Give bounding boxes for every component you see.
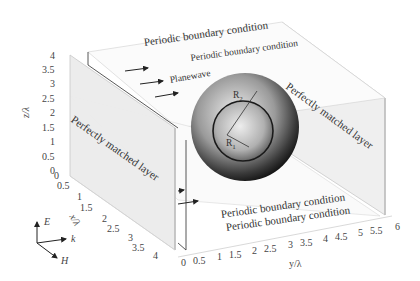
y-axis-label: y/λ — [289, 258, 302, 269]
r1-label: R1 — [226, 138, 236, 151]
z-tick: 2.5 — [42, 93, 55, 104]
y-tick: 0 — [181, 257, 186, 268]
k-vector-label: k — [71, 233, 75, 244]
z-tick: 1 — [50, 136, 55, 147]
x-tick: 1 — [77, 191, 82, 202]
x-tick: 2.5 — [107, 223, 120, 234]
y-tick: 5.5 — [370, 225, 383, 236]
z-tick: 3 — [50, 78, 55, 89]
h-field-arrow — [37, 243, 57, 258]
simulation-domain-diagram: Periodic boundary condition Periodic bou… — [0, 0, 420, 281]
z-tick: 2 — [50, 107, 55, 118]
z-tick: 0.5 — [42, 151, 55, 162]
y-tick: 2 — [252, 245, 257, 256]
h-field-label: H — [61, 255, 68, 266]
y-tick: 1.5 — [229, 249, 242, 260]
y-tick: 1 — [217, 251, 222, 262]
y-tick: 0.5 — [193, 255, 206, 266]
y-tick: 4 — [323, 233, 328, 244]
y-tick: 5 — [358, 227, 363, 238]
y-tick: 3.5 — [300, 237, 313, 248]
r2-subscript: 2 — [239, 95, 243, 103]
z-axis-label: z/λ — [20, 107, 31, 118]
x-tick: 0.5 — [57, 180, 70, 191]
x-tick: 3.5 — [132, 242, 145, 253]
e-field-label: E — [44, 216, 50, 227]
r2-label: R2 — [233, 90, 243, 103]
r1-subscript: 1 — [232, 143, 236, 151]
y-tick: 4.5 — [335, 231, 348, 242]
z-tick: 1.5 — [42, 122, 55, 133]
x-tick: 1.5 — [80, 202, 93, 213]
planewave-arrow-5 — [178, 201, 198, 204]
y-tick: 3 — [288, 239, 293, 250]
x-tick: 4 — [153, 250, 158, 261]
k-vector-arrow — [37, 239, 66, 243]
inner-sphere — [213, 101, 273, 161]
y-tick: 2.5 — [264, 243, 277, 254]
y-tick: 6 — [395, 221, 400, 232]
z-tick: 4 — [50, 50, 55, 61]
z-tick: 3.5 — [42, 64, 55, 75]
